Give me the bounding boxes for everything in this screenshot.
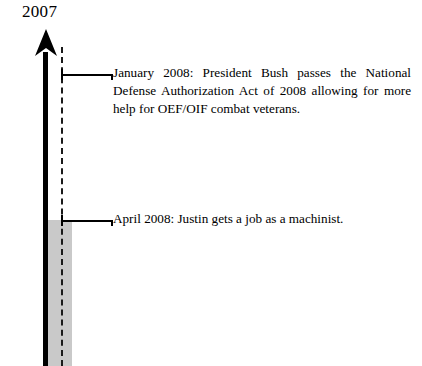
event-description-text: April 2008: Justin gets a job as a machi… <box>113 210 411 228</box>
timeline-axis-line <box>43 52 48 366</box>
era-label-2007: 2007 <box>22 1 57 23</box>
timeline-arrow-icon <box>34 29 58 56</box>
event-connector-line <box>61 74 113 76</box>
event-connector-line <box>61 220 113 222</box>
timeline-dashed-guide <box>61 47 63 366</box>
event-description-text: January 2008: President Bush passes the … <box>113 64 411 118</box>
timeline-figure: 2007 January 2008: President Bush passes… <box>0 0 422 366</box>
